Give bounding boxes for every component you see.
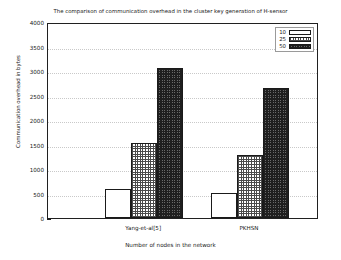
legend-label: 10 (279, 29, 286, 36)
chart-title: The comparison of communication overhead… (0, 7, 341, 15)
y-axis-tick-label: 3500 (4, 45, 44, 51)
bar (211, 193, 237, 218)
bar (131, 143, 157, 218)
y-axis-tick-labels: 05001000150020002500300035004000 (0, 23, 44, 219)
y-axis-tick-label: 3000 (4, 69, 44, 75)
bar-chart-figure: The comparison of communication overhead… (0, 0, 341, 260)
legend-swatch (289, 44, 311, 49)
legend-item: 25 (279, 36, 311, 43)
bar (157, 68, 183, 218)
legend-item: 10 (279, 29, 311, 36)
y-axis-tick-label: 1500 (4, 143, 44, 149)
x-axis-tick-label: Yang-et-al[5] (98, 224, 188, 232)
y-axis-tick-label: 0 (4, 216, 44, 222)
bar (263, 88, 289, 218)
x-axis-title: Number of nodes in the network (0, 241, 341, 249)
bar (105, 189, 131, 218)
bar (237, 155, 263, 218)
legend-label: 25 (279, 36, 286, 43)
plot-area: 102550 (47, 23, 318, 219)
legend-label: 50 (279, 43, 286, 50)
y-axis-tick-mark (47, 219, 51, 220)
y-axis-title: Communication overhead in bytes (15, 7, 22, 197)
y-axis-tick-label: 4000 (4, 20, 44, 26)
y-axis-tick-label: 2500 (4, 94, 44, 100)
legend-item: 50 (279, 43, 311, 50)
legend-swatch (289, 37, 311, 42)
x-axis-tick-labels: Yang-et-al[5]PKHSN (47, 224, 318, 236)
chart-legend: 102550 (275, 27, 314, 52)
x-axis-tick-label: PKHSN (204, 224, 294, 232)
legend-swatch (289, 30, 311, 35)
y-axis-tick-label: 1000 (4, 167, 44, 173)
y-axis-tick-label: 2000 (4, 118, 44, 124)
y-axis-tick-label: 500 (4, 192, 44, 198)
